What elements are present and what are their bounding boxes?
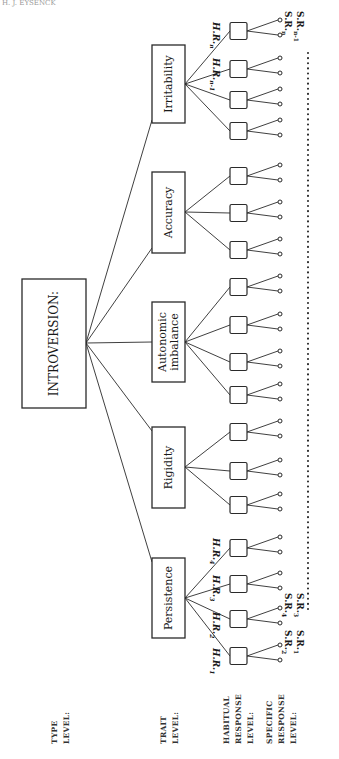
specific-response-node [278, 215, 282, 219]
svg-text:S.R.n-1: S.R.n-1 [293, 11, 305, 42]
sr-label-n-1: S.R.n-1 [293, 11, 305, 42]
sr-label-4: S.R.4 [281, 593, 293, 617]
habitual-response-box [230, 123, 247, 140]
svg-text:Accuracy: Accuracy [162, 186, 175, 239]
habitual-response-box [230, 279, 247, 296]
specific-response-node [278, 118, 282, 122]
specific-response-node [278, 550, 282, 554]
svg-text:RESPONSE: RESPONSE [277, 694, 286, 744]
trait-node-rigidity: Rigidity [152, 427, 185, 508]
specific-response-node [278, 312, 282, 316]
trait-nodes: Persistence Rigidity Autonomic imbalance… [152, 45, 185, 638]
specific-response-node [278, 397, 282, 401]
specific-response-node [278, 237, 282, 241]
habitual-response-box [230, 576, 247, 593]
hr-label-3: H.R.3 [209, 574, 221, 601]
specific-response-node [278, 163, 282, 167]
trait-level-label: TRAIT LEVEL: [159, 712, 180, 744]
specific-response-labels: S.R.1 S.R.2 S.R.3 S.R.4 S.R.n-1 S.R.n [281, 11, 305, 654]
habitual-response-box [230, 317, 247, 334]
specific-response-node [278, 492, 282, 496]
habitual-response-box [230, 242, 247, 259]
trait-node-irritability: Irritability [152, 45, 185, 123]
habitual-response-labels: H.R.1 H.R.2 H.R.3 H.R.4 H.R.n-1 H.R.n [209, 21, 221, 674]
specific-response-node [278, 606, 282, 610]
svg-text:imbalance: imbalance [168, 313, 181, 370]
specific-response-node [278, 289, 282, 293]
specific-response-node [278, 252, 282, 256]
specific-response-node [278, 473, 282, 477]
svg-text:HABITUAL: HABITUAL [222, 695, 231, 744]
specific-response-level-label: SPECIFIC RESPONSE LEVEL: [265, 694, 298, 744]
trait-node-accuracy: Accuracy [152, 172, 185, 253]
svg-text:LEVEL:: LEVEL: [289, 712, 298, 744]
hr-label-n-1: H.R.n-1 [209, 57, 221, 91]
specific-response-node [278, 274, 282, 278]
habitual-response-box [230, 92, 247, 109]
specific-response-node [278, 458, 282, 462]
svg-text:Rigidity: Rigidity [162, 445, 175, 489]
svg-text:TRAIT: TRAIT [159, 716, 168, 744]
trait-node-persistence: Persistence [152, 558, 185, 638]
svg-text:S.R.1: S.R.1 [293, 630, 305, 654]
habitual-response-box [230, 168, 247, 185]
type-to-trait-edges [86, 120, 152, 562]
specific-response-node [278, 349, 282, 353]
svg-text:H.R.2: H.R.2 [209, 611, 221, 638]
svg-text:S.R.4: S.R.4 [281, 593, 293, 617]
habitual-response-box [230, 205, 247, 222]
sr-label-3: S.R.3 [293, 593, 305, 617]
sr-label-1: S.R.1 [293, 630, 305, 654]
svg-text:H.R.3: H.R.3 [209, 574, 221, 601]
hr-label-1: H.R.1 [209, 647, 221, 674]
specific-response-node [278, 18, 282, 22]
hr-label-n: H.R.n [209, 21, 221, 49]
specific-response-node [278, 571, 282, 575]
specific-response-node [278, 133, 282, 137]
specific-response-node [278, 586, 282, 590]
habitual-response-box [230, 387, 247, 404]
habitual-response-box [230, 463, 247, 480]
type-node-label: INTROVERSION: [47, 291, 61, 396]
svg-text:Persistence: Persistence [162, 566, 175, 630]
specific-response-node [278, 364, 282, 368]
specific-response-node [278, 658, 282, 662]
specific-response-node [278, 200, 282, 204]
specific-response-node [278, 327, 282, 331]
svg-text:SPECIFIC: SPECIFIC [265, 701, 274, 744]
svg-text:S.R.3: S.R.3 [293, 593, 305, 617]
specific-response-node [278, 56, 282, 60]
specific-response-node [278, 178, 282, 182]
svg-text:LEVEL:: LEVEL: [246, 712, 255, 744]
specific-response-node [278, 71, 282, 75]
svg-text:Irritability: Irritability [162, 54, 175, 112]
type-node-introversion: INTROVERSION: [22, 279, 86, 408]
svg-text:TYPE: TYPE [50, 721, 59, 745]
habitual-response-box [230, 61, 247, 78]
running-head: H. J. EYSENCK [2, 0, 56, 7]
svg-text:H.R.1: H.R.1 [209, 647, 221, 674]
personality-hierarchy-diagram: H. J. EYSENCK TYPE LEVEL: TRAIT LEVEL: H… [0, 0, 339, 759]
habitual-response-box [230, 23, 247, 40]
specific-response-node [278, 419, 282, 423]
svg-text:S.R.2: S.R.2 [281, 630, 293, 654]
svg-text:H.R.n: H.R.n [209, 21, 221, 49]
specific-response-node [278, 87, 282, 91]
habitual-response-box [230, 497, 247, 514]
habitual-response-box [230, 648, 247, 665]
habitual-response-box [230, 354, 247, 371]
hr-label-2: H.R.2 [209, 611, 221, 638]
svg-text:S.R.n: S.R.n [281, 11, 293, 36]
habitual-response-nodes [230, 23, 247, 665]
type-level-label: TYPE LEVEL: [50, 712, 71, 744]
specific-response-node [278, 382, 282, 386]
specific-response-node [278, 507, 282, 511]
specific-response-node [278, 643, 282, 647]
svg-text:H.R.n-1: H.R.n-1 [209, 57, 221, 91]
habitual-response-level-label: HABITUAL RESPONSE LEVEL: [222, 694, 255, 744]
svg-text:RESPONSE: RESPONSE [234, 694, 243, 744]
sr-label-n: S.R.n [281, 11, 293, 36]
habitual-response-box [230, 424, 247, 441]
specific-response-nodes [278, 18, 282, 662]
trait-node-autonomic-imbalance: Autonomic imbalance [152, 302, 185, 382]
